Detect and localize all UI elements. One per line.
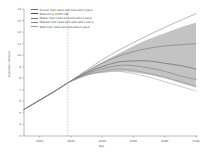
legend-line-swatch [31,9,38,10]
y-tick-label: 4 [6,122,21,126]
legend-line-swatch [31,13,38,14]
x-tick-label: 2020 [67,139,74,143]
projection-uncertainty-band [68,23,196,88]
y-tick-label: 12 [6,30,21,34]
x-tick-label: 2000 [36,139,43,143]
y-tick-label: 5 [6,111,21,115]
y-axis-label: Population (billions) [7,36,11,92]
x-tick-label: 2040 [98,139,105,143]
population-projection-chart: Slower met need and education paceRefere… [0,0,203,158]
legend-line-swatch [31,18,38,19]
x-axis-label: Year [0,144,203,148]
legend-item: SDG met need and education pace [31,25,109,29]
uncertainty-band-group [68,23,196,88]
y-tick-label: 3 [6,134,21,138]
x-tick-label: 2080 [161,139,168,143]
legend-line-swatch [31,26,38,27]
legend-item-label: SDG met need and education pace [40,25,90,29]
y-tick-label: 13 [6,19,21,23]
legend-line-swatch [31,22,38,23]
chart-legend: Slower met need and education paceRefere… [31,8,109,29]
y-tick-label: 6 [6,99,21,103]
x-tick-label: 2100 [192,139,199,143]
x-tick-label: 2060 [130,139,137,143]
y-tick-label: 14 [6,7,21,11]
